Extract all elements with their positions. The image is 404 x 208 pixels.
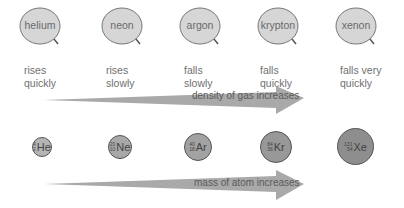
atom-numbers: 4 2 (33, 142, 36, 152)
balloon-icon (334, 6, 390, 62)
atomic-number: 10 (110, 147, 116, 152)
balloon-krypton: krypton (256, 6, 302, 48)
behavior-line: falls (260, 64, 292, 77)
element-symbol: Kr (274, 141, 285, 153)
atom-helium: 4 2 He (32, 137, 52, 157)
balloon-label: krypton (256, 19, 300, 31)
balloon-neon: neon (100, 6, 146, 48)
density-arrow-label: density of gas increases (192, 90, 299, 101)
mass-arrow: mass of atom increases (44, 170, 304, 206)
balloon-icon (18, 6, 74, 62)
balloon-label: argon (178, 19, 222, 31)
behavior-line: falls very (340, 64, 381, 77)
element-symbol: Ar (196, 141, 207, 153)
density-arrow: density of gas increases (44, 86, 304, 122)
balloon-icon (100, 6, 156, 62)
balloon-icon (256, 6, 312, 62)
atomic-number: 54 (347, 147, 353, 152)
behavior-xenon: falls very quickly (340, 64, 381, 90)
atom-numbers: 84 36 (267, 142, 273, 152)
atomic-number: 36 (267, 147, 273, 152)
element-symbol: Ne (116, 141, 130, 153)
balloon-xenon: xenon (334, 6, 380, 48)
behavior-line: quickly (340, 77, 381, 90)
atomic-number: 2 (33, 147, 36, 152)
atom-argon: 40 18 Ar (184, 133, 212, 161)
atomic-number: 18 (189, 147, 195, 152)
balloon-icon (178, 6, 234, 62)
balloon-label: neon (100, 19, 144, 31)
atom-numbers: 20 10 (110, 142, 116, 152)
arrow-shape (44, 170, 304, 206)
atom-numbers: 40 18 (189, 142, 195, 152)
atom-numbers: 131 54 (344, 142, 352, 152)
balloon-helium: helium (18, 6, 64, 48)
balloon-label: xenon (334, 19, 378, 31)
atom-xenon: 131 54 Xe (337, 128, 374, 165)
atom-neon: 20 10 Ne (108, 135, 132, 159)
mass-arrow-label: mass of atom increases (194, 177, 300, 188)
element-symbol: Xe (353, 141, 366, 153)
balloon-label: helium (18, 19, 62, 31)
element-symbol: He (37, 141, 51, 153)
behavior-line: rises (106, 64, 135, 77)
balloon-argon: argon (178, 6, 224, 48)
atom-krypton: 84 36 Kr (260, 131, 292, 163)
behavior-line: falls (184, 64, 213, 77)
behavior-line: rises (24, 64, 56, 77)
